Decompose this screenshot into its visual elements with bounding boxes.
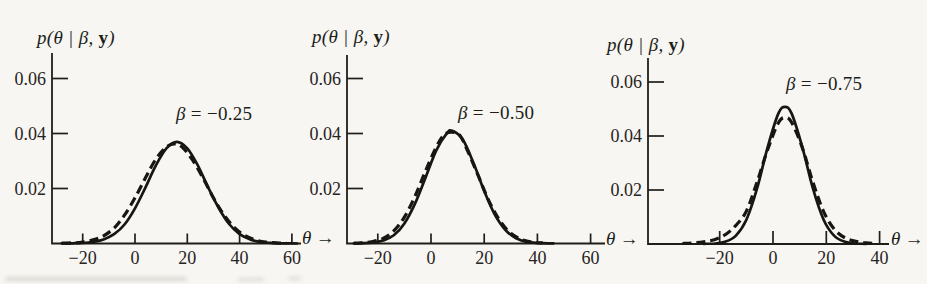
theta-axis-label: θ→ [891, 229, 924, 250]
theta-axis-label: θ→ [606, 229, 639, 250]
beta-symbol: β [458, 102, 468, 123]
x-tick-label: −20 [706, 248, 734, 268]
x-tick-label: 0 [769, 248, 778, 268]
x-tick-label: 40 [871, 248, 889, 268]
figure-canvas: −2002040600.020.040.06−2002040600.020.04… [0, 0, 927, 284]
y-tick-label: 0.02 [310, 179, 342, 199]
y-axis-label-prefix: p(θ | β, [607, 34, 669, 55]
y-axis-label-bold-y: y [669, 34, 679, 55]
right-arrow-icon: → [620, 228, 639, 249]
y-axis-label-prefix: p(θ | β, [312, 26, 374, 47]
density-panel-2: −2002040600.020.040.06 [310, 55, 606, 268]
x-tick-label: 60 [283, 248, 301, 268]
beta-annotation: β = −0.25 [176, 104, 252, 125]
y-axis-label-prefix: p(θ | β, [37, 27, 99, 48]
x-tick-label: −20 [364, 248, 392, 268]
beta-annotation: β = −0.75 [786, 74, 862, 95]
x-tick-label: 60 [582, 248, 600, 268]
right-arrow-icon: → [316, 227, 335, 248]
y-axis-label-bold-y: y [99, 27, 109, 48]
y-axis-label: p(θ | β, y) [37, 28, 115, 49]
dashed-curve [682, 118, 877, 244]
axis-lines [347, 55, 605, 244]
x-tick-label: 20 [178, 248, 196, 268]
y-tick-label: 0.02 [611, 180, 643, 200]
caption-smudge [5, 277, 187, 281]
beta-value: = −0.75 [796, 73, 863, 94]
y-tick-label: 0.04 [310, 124, 342, 144]
theta-symbol: θ [606, 228, 616, 249]
beta-annotation: β = −0.50 [458, 103, 534, 124]
theta-symbol: θ [302, 227, 312, 248]
right-arrow-icon: → [905, 228, 924, 249]
caption-smudge [288, 277, 301, 280]
y-axis-label-suffix: ) [108, 27, 115, 48]
y-axis-label: p(θ | β, y) [607, 35, 685, 56]
x-tick-label: 40 [528, 248, 546, 268]
x-tick-label: 0 [131, 248, 140, 268]
y-tick-label: 0.04 [15, 124, 47, 144]
x-tick-label: 0 [427, 248, 436, 268]
density-plots-svg: −2002040600.020.040.06−2002040600.020.04… [0, 0, 927, 284]
beta-value: = −0.50 [468, 102, 535, 123]
y-tick-label: 0.06 [310, 69, 342, 89]
y-axis-label: p(θ | β, y) [312, 27, 390, 48]
beta-value: = −0.25 [186, 103, 253, 124]
beta-symbol: β [786, 73, 796, 94]
density-panel-1: −2002040600.020.040.06 [15, 53, 302, 268]
solid-curve [704, 107, 867, 244]
caption-smudge [238, 278, 264, 281]
y-axis-label-suffix: ) [383, 26, 390, 47]
x-tick-label: 40 [231, 248, 249, 268]
y-tick-label: 0.06 [611, 72, 643, 92]
axis-lines [52, 53, 301, 244]
dashed-curve [62, 144, 287, 243]
y-tick-label: 0.06 [15, 69, 47, 89]
dashed-curve [354, 132, 543, 243]
y-tick-label: 0.02 [15, 179, 47, 199]
theta-axis-label: θ→ [302, 228, 335, 249]
x-tick-label: 20 [475, 248, 493, 268]
solid-curve [354, 130, 554, 243]
solid-curve [62, 142, 297, 244]
beta-symbol: β [176, 103, 186, 124]
y-tick-label: 0.04 [611, 126, 643, 146]
x-tick-label: −20 [69, 248, 97, 268]
theta-symbol: θ [891, 228, 901, 249]
y-axis-label-bold-y: y [374, 26, 384, 47]
x-tick-label: 20 [817, 248, 835, 268]
y-axis-label-suffix: ) [678, 34, 685, 55]
